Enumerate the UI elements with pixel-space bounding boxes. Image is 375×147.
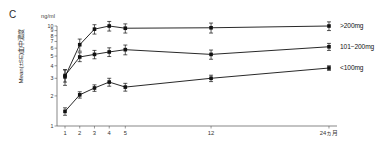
x-tick-label: 24ヵ月 — [320, 130, 338, 137]
data-point-marker — [209, 76, 213, 80]
data-point-marker — [63, 110, 67, 114]
data-point-marker — [63, 74, 67, 78]
y-tick-label: 4 — [51, 63, 54, 69]
data-point-marker — [124, 26, 128, 30]
y-tick-label: 8 — [51, 33, 54, 39]
data-point-marker — [93, 27, 97, 31]
data-point-marker — [209, 53, 213, 57]
legend-label-series-2: 101−200mg — [340, 43, 374, 50]
data-point-marker — [78, 93, 82, 97]
y-tick-label: 7 — [51, 38, 54, 44]
data-point-marker — [107, 80, 111, 84]
x-tick-label: 2 — [78, 130, 81, 136]
x-tick-label: 3 — [93, 130, 96, 136]
data-point-marker — [78, 55, 82, 59]
y-tick-label: 6 — [51, 45, 54, 51]
data-series-layer — [63, 21, 331, 115]
x-axis-ticks: 123451224ヵ月 — [63, 126, 338, 137]
figure-panel-c: C ng/ml Mean(±SE)血中濃度 12345678910 123451… — [0, 0, 375, 147]
axis-lines — [57, 26, 337, 126]
data-point-marker — [124, 48, 128, 52]
data-point-marker — [209, 26, 213, 30]
x-tick-label: 1 — [63, 130, 66, 136]
data-point-marker — [327, 66, 331, 70]
data-point-marker — [93, 86, 97, 90]
data-point-marker — [327, 24, 331, 28]
data-point-marker — [107, 50, 111, 54]
legend-label-series-3: <100mg — [340, 64, 363, 71]
data-point-marker — [93, 53, 97, 57]
data-point-marker — [78, 43, 82, 47]
y-axis-ticks: 12345678910 — [48, 23, 57, 129]
y-tick-label: 10 — [48, 23, 54, 29]
y-tick-label: 1 — [51, 123, 54, 129]
series-2 — [63, 43, 331, 82]
y-tick-label: 3 — [51, 75, 54, 81]
y-tick-label: 5 — [51, 53, 54, 59]
legend-label-series-1: >200mg — [340, 22, 363, 29]
y-tick-label: 2 — [51, 93, 54, 99]
data-point-marker — [124, 85, 128, 89]
x-tick-label: 5 — [124, 130, 127, 136]
data-point-marker — [107, 24, 111, 28]
series-3 — [63, 66, 331, 115]
data-point-marker — [327, 45, 331, 49]
x-tick-label: 4 — [108, 130, 112, 136]
plot-area: 12345678910 123451224ヵ月 — [0, 0, 375, 147]
x-tick-label: 12 — [208, 130, 214, 136]
